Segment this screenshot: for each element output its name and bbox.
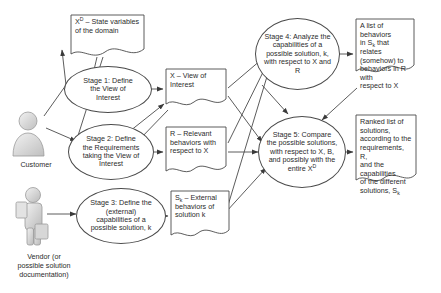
customer-caption: Customer — [0, 160, 72, 169]
doc-ranked-list[interactable]: Ranked list of solutions, according to t… — [355, 114, 417, 186]
doc-view-of-interest-line-2: Interest — [170, 81, 223, 90]
doc-behavior-list-line-1: A list of behaviors — [360, 22, 411, 39]
doc-ranked-list-line-5: and the capabilities — [360, 161, 413, 178]
doc-behavior-list-line-5: respect to X — [360, 82, 411, 91]
doc-view-of-interest[interactable]: X – View of Interest — [165, 68, 227, 108]
stage-4-node[interactable]: Stage 4: Analyze the capabilities of a p… — [255, 18, 340, 90]
vendor-caption-line-1: Vendor (or — [0, 252, 88, 261]
doc-external-behaviors-line-3: solution k — [175, 211, 226, 220]
stage-3-node[interactable]: Stage 3: Define the (external) capabilit… — [76, 188, 166, 244]
doc-ranked-list-line-7: solutions, Sk — [360, 187, 413, 196]
doc-behavior-list-line-2: in Sk that relates — [360, 39, 411, 56]
doc-domain-state-line-2: of the domain — [75, 27, 141, 36]
doc-relevant-behaviors-line-3: respect to X — [170, 147, 223, 156]
stage-1-node[interactable]: Stage 1: Define the View of Interest — [64, 66, 152, 113]
stage-5-line-5: entire XD — [267, 165, 338, 173]
doc-behavior-list[interactable]: A list of behaviors in Sk that relates (… — [355, 18, 415, 76]
stage-2-node[interactable]: Stage 2: Define the Requirements taking … — [68, 124, 154, 180]
stage-5-node[interactable]: Stage 5: Compare the possible solutions,… — [258, 116, 346, 188]
stage-1-line-3: Interest — [83, 94, 133, 102]
doc-relevant-behaviors[interactable]: R – Relevant behaviors with respect to X — [165, 126, 227, 176]
stage-3-line-4: possible solution, k — [90, 224, 152, 232]
stage-2-line-4: Interest — [83, 160, 140, 168]
stage-4-line-5: R — [264, 67, 331, 75]
avatar-vendor — [12, 186, 52, 248]
diagram-canvas: Customer Vendor (or possible solution do… — [0, 0, 441, 293]
doc-domain-state[interactable]: XD – State variables of the domain — [70, 14, 145, 58]
doc-ranked-list-line-4: requirements, R, — [360, 144, 413, 161]
vendor-caption-line-2: possible solution — [0, 261, 88, 270]
doc-external-behaviors[interactable]: Sk – External behaviors of solution k — [170, 190, 230, 240]
avatar-customer — [8, 110, 50, 158]
vendor-caption-line-3: documentation) — [0, 270, 88, 279]
vendor-caption: Vendor (or possible solution documentati… — [0, 252, 88, 279]
doc-behavior-list-line-4: behaviors in R with — [360, 65, 411, 82]
